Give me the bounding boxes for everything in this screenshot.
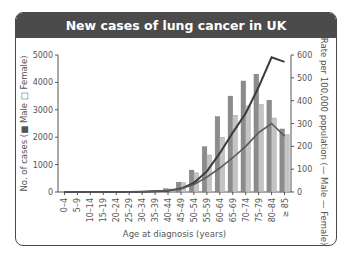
male-rate-line <box>64 57 284 192</box>
y-tick-label: 4000 <box>33 78 53 87</box>
x-tick-label: 65–69 <box>229 198 238 222</box>
x-tick-label: 20–24 <box>112 198 121 222</box>
x-tick-label: 5–9 <box>73 198 82 212</box>
y-tick-label: 5000 <box>33 51 53 60</box>
female-rate-line <box>64 124 284 193</box>
x-tick-label: 45–49 <box>177 198 186 222</box>
y2-tick-label: 200 <box>297 142 312 151</box>
y2-tick-label: 400 <box>297 97 312 106</box>
bar-male <box>228 96 233 192</box>
x-tick-label: 80–84 <box>268 198 277 222</box>
bar-male <box>189 170 194 192</box>
y2-tick-label: 0 <box>297 188 302 197</box>
bar-female <box>259 104 264 192</box>
x-tick-label: 30–34 <box>138 198 147 222</box>
y-tick-label: 0 <box>48 188 53 197</box>
bar-female <box>272 118 277 192</box>
bar-male <box>267 100 272 192</box>
bar-female <box>285 134 290 192</box>
bar-male <box>202 147 207 192</box>
x-tick-label: 70–74 <box>242 198 251 222</box>
y2-tick-label: 100 <box>297 165 312 174</box>
y-tick-label: 2000 <box>33 133 53 142</box>
bar-male <box>280 129 285 192</box>
x-tick-label: 25–29 <box>125 198 134 222</box>
x-tick-label: 35–39 <box>151 198 160 222</box>
x-tick-label: 0–4 <box>60 198 69 212</box>
x-axis-label: Age at diagnosis (years) <box>123 229 226 239</box>
x-tick-label: ≥ 85 <box>281 198 290 217</box>
y-tick-label: 1000 <box>33 161 53 170</box>
x-tick-label: 50–54 <box>190 198 199 222</box>
x-tick-label: 55–59 <box>203 198 212 222</box>
chart-plot: 0100020003000400050000100200300400500600… <box>0 0 348 256</box>
x-tick-label: 60–64 <box>216 198 225 222</box>
y2-tick-label: 500 <box>297 74 312 83</box>
bar-male <box>241 81 246 192</box>
x-tick-label: 75–79 <box>255 198 264 222</box>
y-axis-label: No. of cases (■ Male □ Female) <box>19 55 29 191</box>
bar-male <box>176 182 181 192</box>
y-tick-label: 3000 <box>33 106 53 115</box>
x-tick-label: 15–19 <box>99 198 108 222</box>
bar-female <box>246 106 251 192</box>
y2-tick-label: 300 <box>297 120 312 129</box>
x-tick-label: 40–44 <box>164 198 173 222</box>
x-tick-label: 10–14 <box>86 198 95 222</box>
y2-axis-label: Rate per 100,000 population (— Male — Fe… <box>319 38 329 245</box>
y2-tick-label: 600 <box>297 51 312 60</box>
